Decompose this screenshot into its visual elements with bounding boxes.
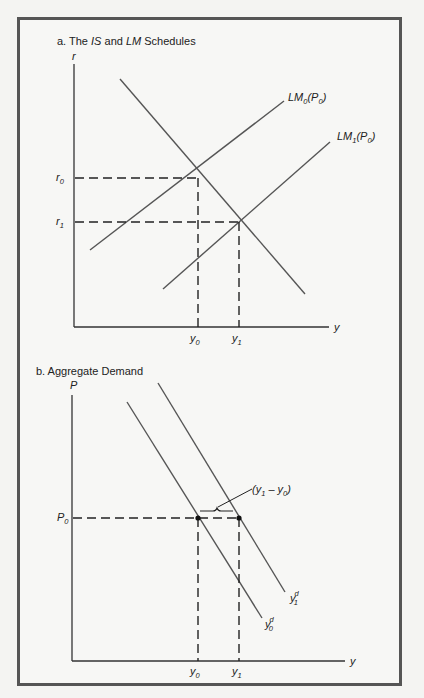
r0-tick-label: r0 <box>56 171 65 186</box>
lm1-label: LM1(P0) <box>337 130 376 145</box>
y1-tick-label-a: y1 <box>231 332 242 347</box>
is-curve <box>120 79 305 294</box>
lm0-label: LM0(P0) <box>288 91 327 106</box>
p0-tick-label: P0 <box>57 511 69 526</box>
y-axis-label-a: y <box>333 321 341 333</box>
y0-tick-label-b: y0 <box>189 665 201 680</box>
ad0-label: yd0 <box>264 615 275 633</box>
r-axis-label: r <box>72 50 77 62</box>
p-axis-label: P <box>70 379 78 391</box>
panel-b-aggregate-demand: b. Aggregate Demand P y yd0 yd1 (y1 – y0… <box>36 365 357 680</box>
point-y1-p0 <box>236 515 241 520</box>
ad1-label: yd1 <box>289 589 300 607</box>
r1-tick-label: r1 <box>56 215 64 230</box>
output-gap-annotation: (y1 – y0) <box>252 483 291 498</box>
lm0-curve <box>90 101 284 250</box>
point-y0-p0 <box>195 515 200 520</box>
annotation-leader <box>218 489 252 507</box>
panel-b-title: b. Aggregate Demand <box>36 365 143 377</box>
ad0-curve <box>127 402 262 618</box>
brace-icon <box>200 508 233 511</box>
y1-tick-label-b: y1 <box>231 665 242 680</box>
y-axis-label-b: y <box>349 655 357 667</box>
panel-a-title: a. The IS and LM Schedules <box>57 35 196 47</box>
y0-tick-label-a: y0 <box>189 332 201 347</box>
lm1-curve <box>163 142 330 289</box>
diagram-canvas: a. The IS and LM Schedules r y LM0(P0) L… <box>0 0 424 698</box>
panel-a-is-lm: a. The IS and LM Schedules r y LM0(P0) L… <box>56 35 376 347</box>
